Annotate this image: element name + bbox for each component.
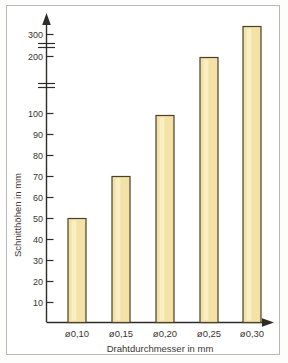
y-tick-label-60: 60: [33, 193, 43, 203]
x-tick-label-3: ø0,25: [197, 328, 221, 339]
y-tick-label-100: 100: [28, 109, 43, 119]
bar-chart: 10 20 30 40 50 60 70 80 90: [0, 0, 288, 363]
figure-container: 10 20 30 40 50 60 70 80 90: [0, 0, 288, 363]
bar-sheen-2: [160, 118, 165, 321]
bar-rect-1[interactable]: [112, 177, 130, 323]
y-tick-label-40: 40: [33, 235, 43, 245]
bar-sheen-0: [72, 221, 77, 321]
x-axis-arrowhead: [262, 318, 274, 327]
y-tick-label-30: 30: [33, 256, 43, 266]
y-tick-label-200: 200: [28, 52, 43, 62]
y-axis: [42, 13, 51, 322]
bar-rect-3[interactable]: [200, 58, 218, 323]
bar-rect-2[interactable]: [156, 116, 174, 323]
bar-2[interactable]: [156, 116, 174, 323]
bar-3[interactable]: [200, 58, 218, 323]
y-tick-label-10: 10: [33, 298, 43, 308]
x-axis-tick-labels: ø0,10 ø0,15 ø0,20 ø0,25 ø0,30: [65, 328, 264, 339]
bar-1[interactable]: [112, 177, 130, 323]
y-axis-title: Schnitthöhen in mm: [12, 173, 23, 257]
y-tick-label-20: 20: [33, 277, 43, 287]
x-tick-label-4: ø0,30: [240, 328, 264, 339]
x-axis-title: Drahtdurchmesser in mm: [107, 343, 214, 354]
y-tick-label-300: 300: [28, 30, 43, 40]
bar-rect-4[interactable]: [243, 27, 261, 323]
y-tick-label-80: 80: [33, 151, 43, 161]
y-axis-arrowhead: [42, 13, 51, 25]
y-tick-label-70: 70: [33, 172, 43, 182]
bar-sheen-4: [247, 29, 252, 321]
x-tick-label-1: ø0,15: [109, 328, 133, 339]
y-tick-label-50: 50: [33, 214, 43, 224]
y-tick-label-90: 90: [33, 130, 43, 140]
bar-rect-0[interactable]: [68, 219, 86, 323]
bar-sheen-3: [204, 60, 209, 321]
bar-4[interactable]: [243, 27, 261, 323]
bar-0[interactable]: [68, 219, 86, 323]
x-tick-label-2: ø0,20: [153, 328, 177, 339]
bars-group: [68, 27, 261, 323]
bar-sheen-1: [116, 179, 121, 321]
y-axis-ticks: 10 20 30 40 50 60 70 80 90: [28, 30, 54, 308]
x-tick-label-0: ø0,10: [65, 328, 89, 339]
